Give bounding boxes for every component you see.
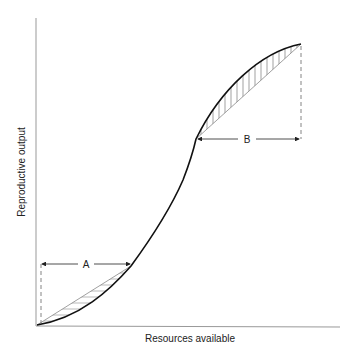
chord-b — [196, 44, 301, 139]
x-axis — [36, 326, 340, 327]
y-axis-label: Reproductive output — [16, 127, 27, 217]
sigmoid-curve — [37, 44, 301, 325]
x-axis-label: Resources available — [145, 333, 235, 344]
label-b: B — [244, 134, 251, 145]
chord-a — [37, 266, 131, 325]
diagram-canvas: A B Resources available Reproductive out… — [0, 0, 355, 353]
label-a: A — [83, 259, 90, 270]
